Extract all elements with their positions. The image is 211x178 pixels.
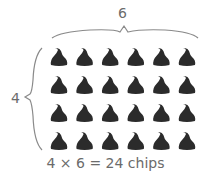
chocolate-chip-icon (51, 76, 67, 94)
chocolate-chip-icon (76, 76, 92, 94)
chocolate-chip-icon (51, 48, 67, 66)
chocolate-chip-icon (51, 104, 67, 122)
chip-grid (51, 48, 195, 150)
chocolate-chip-icon (128, 48, 144, 66)
chocolate-chip-icon (51, 132, 67, 150)
chocolate-chip-icon (179, 104, 195, 122)
chocolate-chip-icon (102, 76, 118, 94)
chocolate-chip-icon (153, 132, 169, 150)
chocolate-chip-icon (179, 132, 195, 150)
left-brace (25, 48, 42, 150)
chocolate-chip-icon (153, 104, 169, 122)
chocolate-chip-icon (179, 76, 195, 94)
chocolate-chip-icon (76, 132, 92, 150)
chocolate-chip-icon (102, 104, 118, 122)
chocolate-chip-icon (128, 132, 144, 150)
chocolate-chip-icon (153, 48, 169, 66)
chocolate-chip-icon (76, 48, 92, 66)
top-brace (52, 26, 198, 38)
chocolate-chip-icon (153, 76, 169, 94)
array-diagram (0, 0, 211, 178)
chocolate-chip-icon (128, 104, 144, 122)
chocolate-chip-icon (102, 48, 118, 66)
chocolate-chip-icon (76, 104, 92, 122)
chocolate-chip-icon (179, 48, 195, 66)
chocolate-chip-icon (102, 132, 118, 150)
chocolate-chip-icon (128, 76, 144, 94)
equation-text: 4 × 6 = 24 chips (0, 156, 211, 170)
